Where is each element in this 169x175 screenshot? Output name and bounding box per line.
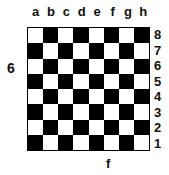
side-label: 6: [7, 60, 15, 76]
rank-label-5: 5: [154, 74, 166, 90]
square-a1: [28, 135, 43, 150]
square-a5: [28, 74, 43, 89]
square-b1: [43, 135, 58, 150]
rank-label-2: 2: [154, 120, 166, 136]
square-f2: [104, 120, 119, 135]
square-e3: [89, 104, 104, 119]
square-d2: [73, 120, 88, 135]
square-d7: [73, 43, 88, 58]
square-b4: [43, 89, 58, 104]
square-c3: [58, 104, 73, 119]
file-label-b: b: [43, 5, 58, 19]
square-e5: [89, 74, 104, 89]
square-e4: [89, 89, 104, 104]
square-c5: [58, 74, 73, 89]
rank-label-1: 1: [154, 136, 166, 152]
square-e1: [89, 135, 104, 150]
square-c2: [58, 120, 73, 135]
square-d5: [73, 74, 88, 89]
square-f7: [104, 43, 119, 58]
square-b5: [43, 74, 58, 89]
square-f1: [104, 135, 119, 150]
square-g1: [119, 135, 134, 150]
square-a7: [28, 43, 43, 58]
square-b7: [43, 43, 58, 58]
square-e6: [89, 59, 104, 74]
square-g7: [119, 43, 134, 58]
file-label-a: a: [28, 5, 43, 19]
square-h2: [134, 120, 149, 135]
square-b3: [43, 104, 58, 119]
square-d6: [73, 59, 88, 74]
square-f5: [104, 74, 119, 89]
square-d4: [73, 89, 88, 104]
rank-label-7: 7: [154, 43, 166, 59]
square-a2: [28, 120, 43, 135]
square-c8: [58, 28, 73, 43]
square-a3: [28, 104, 43, 119]
rank-labels: 8 7 6 5 4 3 2 1: [154, 27, 166, 151]
square-d8: [73, 28, 88, 43]
square-a6: [28, 59, 43, 74]
square-g8: [119, 28, 134, 43]
square-b2: [43, 120, 58, 135]
square-d3: [73, 104, 88, 119]
rank-label-3: 3: [154, 105, 166, 121]
square-e7: [89, 43, 104, 58]
rank-label-4: 4: [154, 89, 166, 105]
square-a8: [28, 28, 43, 43]
square-c6: [58, 59, 73, 74]
square-e2: [89, 120, 104, 135]
square-f6: [104, 59, 119, 74]
square-h1: [134, 135, 149, 150]
chess-board: [27, 27, 150, 151]
square-g2: [119, 120, 134, 135]
square-a4: [28, 89, 43, 104]
square-h5: [134, 74, 149, 89]
file-label-h: h: [136, 5, 151, 19]
file-label-c: c: [59, 5, 74, 19]
square-h6: [134, 59, 149, 74]
file-label-d: d: [74, 5, 89, 19]
square-g4: [119, 89, 134, 104]
square-b6: [43, 59, 58, 74]
rank-label-6: 6: [154, 58, 166, 74]
square-c7: [58, 43, 73, 58]
square-c1: [58, 135, 73, 150]
file-label-g: g: [120, 5, 135, 19]
square-h3: [134, 104, 149, 119]
file-labels: a b c d e f g h: [28, 5, 151, 19]
square-e8: [89, 28, 104, 43]
square-h7: [134, 43, 149, 58]
square-c4: [58, 89, 73, 104]
square-b8: [43, 28, 58, 43]
square-f4: [104, 89, 119, 104]
square-g6: [119, 59, 134, 74]
square-h8: [134, 28, 149, 43]
square-g3: [119, 104, 134, 119]
square-h4: [134, 89, 149, 104]
square-d1: [73, 135, 88, 150]
rank-label-8: 8: [154, 27, 166, 43]
file-label-f: f: [105, 5, 120, 19]
square-f3: [104, 104, 119, 119]
square-g5: [119, 74, 134, 89]
file-label-e: e: [90, 5, 105, 19]
square-f8: [104, 28, 119, 43]
bottom-label: f: [106, 156, 110, 171]
